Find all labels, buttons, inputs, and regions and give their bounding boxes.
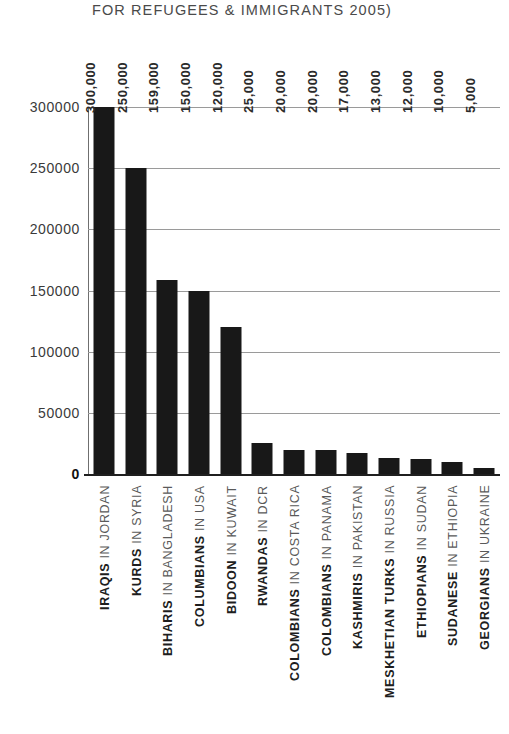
bar-value-label: 150,000	[178, 62, 193, 113]
x-axis-category-group: COLUMBIANS	[193, 535, 207, 627]
x-axis-category-group: COLOMBIANS	[288, 589, 302, 681]
x-axis-category-group: BIHARIS	[161, 600, 175, 656]
x-axis-category-group: COLOMBIANS	[320, 564, 334, 656]
x-axis-category-group: KURDS	[130, 548, 144, 596]
x-axis-category-slot: COLUMBIANS IN USA	[183, 485, 215, 734]
bar-series	[88, 107, 500, 474]
x-axis-category-place: IN SUDAN	[415, 485, 429, 555]
bar-slot	[342, 107, 374, 474]
bar[interactable]	[157, 280, 178, 475]
bar[interactable]	[252, 443, 273, 474]
x-axis-category-slot: KURDS IN SYRIA	[120, 485, 152, 734]
x-axis-category-slot: MESKHETIAN TURKS IN RUSSIA	[373, 485, 405, 734]
bar-value-label: 17,000	[336, 70, 351, 113]
y-axis-tick-label: 0	[6, 466, 80, 482]
bar-slot	[215, 107, 247, 474]
bar-value-label: 20,000	[273, 70, 288, 113]
x-axis-category-slot: SUDANESE IN ETHIOPIA	[437, 485, 469, 734]
x-axis-category-place: IN RUSSIA	[383, 485, 397, 558]
x-axis-category-place: IN COSTA RICA	[288, 485, 302, 589]
x-axis-category-slot: ETHIOPIANS IN SUDAN	[405, 485, 437, 734]
bar-slot	[468, 107, 500, 474]
x-axis-category-slot: COLOMBIANS IN PANAMA	[310, 485, 342, 734]
x-axis-category-place: IN PANAMA	[320, 485, 334, 563]
bar[interactable]	[474, 468, 495, 474]
x-axis-category-label: KASHMIRIS IN PAKISTAN	[352, 485, 365, 649]
bar[interactable]	[283, 450, 304, 474]
y-axis-tick-labels: 300000250000200000150000100000500000	[0, 0, 80, 734]
bar-slot	[278, 107, 310, 474]
bar-value-label: 25,000	[241, 70, 256, 113]
bar[interactable]	[93, 107, 114, 474]
x-axis-category-label: BIDOON IN KUWAIT	[226, 485, 239, 614]
y-axis-tick-label: 100000	[6, 344, 80, 360]
x-axis-category-group: GEORGIANS	[478, 567, 492, 650]
bar-value-label: 5,000	[463, 77, 478, 113]
x-axis-category-label: ETHIOPIANS IN SUDAN	[416, 485, 429, 638]
x-axis-category-slot: IRAQIS IN JORDAN	[88, 485, 120, 734]
chart-title: FOR REFUGEES & IMMIGRANTS 2005)	[92, 2, 392, 18]
x-axis-category-group: ETHIOPIANS	[415, 555, 429, 638]
bar-slot	[151, 107, 183, 474]
bar-value-label: 20,000	[305, 70, 320, 113]
bar-slot	[120, 107, 152, 474]
y-axis-tick-label: 200000	[6, 221, 80, 237]
x-axis-category-label: BIHARIS IN BANGLADESH	[162, 485, 175, 656]
bar[interactable]	[125, 168, 146, 474]
bar-value-label: 300,000	[83, 62, 98, 113]
x-axis-category-slot: BIDOON IN KUWAIT	[215, 485, 247, 734]
bar[interactable]	[220, 327, 241, 474]
bar-slot	[405, 107, 437, 474]
x-axis-category-group: RWANDAS	[256, 537, 270, 606]
x-axis-category-label: SUDANESE IN ETHIOPIA	[447, 485, 460, 646]
x-axis-category-group: BIDOON	[225, 560, 239, 614]
bar-slot	[437, 107, 469, 474]
bar-value-label-slot: 5,000	[468, 36, 500, 106]
x-axis-category-slot: GEORGIANS IN UKRAINE	[468, 485, 500, 734]
x-axis-category-group: KASHMIRIS	[351, 573, 365, 649]
x-axis-baseline	[84, 474, 500, 476]
y-axis-tick-label: 300000	[6, 99, 80, 115]
bar[interactable]	[188, 291, 209, 475]
x-axis-category-label: COLOMBIANS IN PANAMA	[321, 485, 334, 656]
x-axis-category-slot: KASHMIRIS IN PAKISTAN	[342, 485, 374, 734]
y-axis-tick-label: 250000	[6, 160, 80, 176]
y-axis-tick-label: 150000	[6, 283, 80, 299]
x-axis-category-place: IN SYRIA	[130, 485, 144, 548]
bar-value-label: 159,000	[146, 62, 161, 113]
x-axis-category-place: IN KUWAIT	[225, 485, 239, 560]
bar[interactable]	[379, 458, 400, 474]
x-axis-category-place: IN ETHIOPIA	[446, 485, 460, 571]
x-axis-category-group: MESKHETIAN TURKS	[383, 558, 397, 698]
bar-slot	[373, 107, 405, 474]
bar-slot	[310, 107, 342, 474]
x-axis-category-place: IN UKRAINE	[478, 485, 492, 568]
x-axis-category-place: IN PAKISTAN	[351, 485, 365, 573]
x-axis-category-label: COLUMBIANS IN USA	[194, 485, 207, 627]
bar[interactable]	[315, 450, 336, 474]
x-axis-category-label: COLOMBIANS IN COSTA RICA	[289, 485, 302, 681]
bar-value-label: 250,000	[115, 62, 130, 113]
bar-value-label: 10,000	[431, 70, 446, 113]
x-axis-category-label: MESKHETIAN TURKS IN RUSSIA	[384, 485, 397, 698]
bar-slot	[183, 107, 215, 474]
x-axis-category-labels: IRAQIS IN JORDANKURDS IN SYRIABIHARIS IN…	[88, 485, 500, 734]
chart-root: FOR REFUGEES & IMMIGRANTS 2005) 30000025…	[0, 0, 509, 734]
x-axis-category-label: GEORGIANS IN UKRAINE	[479, 485, 492, 650]
x-axis-category-group: SUDANESE	[446, 571, 460, 646]
bar[interactable]	[442, 462, 463, 474]
bar-slot	[88, 107, 120, 474]
bar-value-labels: 300,000250,000159,000150,000120,00025,00…	[88, 36, 500, 106]
bar[interactable]	[347, 453, 368, 474]
x-axis-category-label: RWANDAS IN DCR	[257, 485, 270, 606]
x-axis-category-label: IRAQIS IN JORDAN	[99, 485, 112, 610]
x-axis-category-slot: BIHARIS IN BANGLADESH	[151, 485, 183, 734]
x-axis-category-slot: RWANDAS IN DCR	[246, 485, 278, 734]
y-axis-tick-label: 50000	[6, 405, 80, 421]
bar[interactable]	[410, 459, 431, 474]
bar-value-label: 120,000	[210, 62, 225, 113]
x-axis-category-label: KURDS IN SYRIA	[131, 485, 144, 596]
x-axis-category-place: IN USA	[193, 485, 207, 535]
x-axis-category-slot: COLOMBIANS IN COSTA RICA	[278, 485, 310, 734]
bar-value-label: 13,000	[368, 70, 383, 113]
